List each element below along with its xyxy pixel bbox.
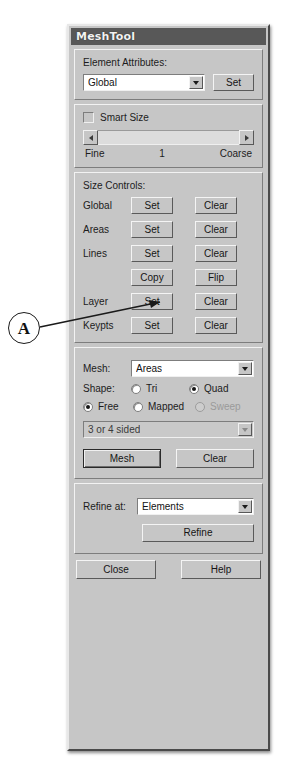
chevron-down-icon[interactable] [238, 362, 252, 375]
smart-size-slider[interactable] [83, 130, 254, 145]
smart-size-value-label: 1 [159, 148, 165, 159]
smart-size-panel: Smart Size Fine 1 Coarse [74, 104, 263, 168]
mesh-panel: Mesh: Areas Shape: Tri Quad [74, 347, 263, 479]
smart-size-checkbox[interactable] [83, 112, 94, 123]
callout-marker-label: A [18, 320, 30, 337]
size-control-layer-set-button[interactable]: Set [131, 293, 173, 310]
mode-option-sweep-label: Sweep [210, 401, 241, 412]
mesh-button[interactable]: Mesh [83, 449, 161, 468]
radio-quad[interactable] [189, 384, 199, 394]
radio-mapped[interactable] [133, 402, 143, 412]
smart-size-slider-labels: Fine 1 Coarse [83, 147, 254, 159]
smart-size-checkbox-row[interactable]: Smart Size [83, 112, 254, 123]
smart-size-label: Smart Size [100, 112, 149, 123]
mesh-type-dropdown[interactable]: Areas [131, 360, 254, 377]
element-attributes-set-button[interactable]: Set [213, 74, 254, 91]
arrow-right-icon[interactable] [239, 130, 254, 145]
sided-dropdown-value: 3 or 4 sided [88, 424, 140, 435]
element-attributes-row: Global Set [83, 74, 254, 91]
chevron-down-icon[interactable] [238, 423, 252, 436]
smart-size-slider-track[interactable] [98, 130, 239, 145]
element-attributes-label: Element Attributes: [83, 57, 254, 68]
dialog-body: Element Attributes: Global Set Smart Siz… [69, 45, 268, 584]
dialog-footer: Close Help [74, 558, 263, 579]
size-control-global-clear-button[interactable]: Clear [195, 197, 237, 214]
smart-size-max-label: Coarse [220, 148, 252, 159]
size-controls-label: Size Controls: [83, 180, 254, 191]
size-control-row-copy-flip: Copy Flip [83, 269, 254, 286]
size-control-lines-set-button[interactable]: Set [131, 245, 173, 262]
close-button[interactable]: Close [76, 560, 156, 579]
refine-at-label: Refine at: [83, 501, 137, 512]
callout-marker-a: A [8, 312, 40, 344]
sided-dropdown-row: 3 or 4 sided [83, 421, 254, 438]
radio-free[interactable] [83, 402, 93, 412]
mode-option-free-label: Free [98, 401, 119, 412]
chevron-down-icon[interactable] [238, 500, 252, 513]
mode-option-free[interactable]: Free [83, 401, 133, 412]
size-control-areas-clear-button[interactable]: Clear [195, 221, 237, 238]
shape-option-tri[interactable]: Tri [131, 383, 189, 394]
refine-at-value: Elements [142, 501, 184, 512]
mode-option-sweep: Sweep [195, 401, 241, 412]
radio-tri[interactable] [131, 384, 141, 394]
shape-option-tri-label: Tri [146, 383, 157, 394]
mesh-label: Mesh: [83, 363, 131, 374]
dialog-title: MeshTool [76, 30, 135, 43]
element-attributes-value: Global [88, 77, 117, 88]
size-control-row-areas: Areas Set Clear [83, 221, 254, 238]
refine-button[interactable]: Refine [142, 524, 254, 542]
shape-row: Shape: Tri Quad [83, 383, 254, 394]
mesh-clear-button[interactable]: Clear [176, 449, 254, 468]
sided-dropdown[interactable]: 3 or 4 sided [83, 421, 254, 438]
size-control-global-set-button[interactable]: Set [131, 197, 173, 214]
size-controls-panel: Size Controls: Global Set Clear Areas Se… [74, 172, 263, 343]
size-control-copy-button[interactable]: Copy [131, 269, 173, 286]
radio-sweep [195, 402, 205, 412]
refine-at-row: Refine at: Elements [83, 498, 254, 515]
size-control-areas-set-button[interactable]: Set [131, 221, 173, 238]
size-control-layer-clear-button[interactable]: Clear [195, 293, 237, 310]
mesh-type-row: Mesh: Areas [83, 360, 254, 377]
dialog-titlebar[interactable]: MeshTool [71, 28, 266, 45]
size-control-row-keypts: Keypts Set Clear [83, 317, 254, 334]
refine-panel: Refine at: Elements Refine [74, 483, 263, 554]
shape-option-quad[interactable]: Quad [189, 383, 228, 394]
size-control-label-global: Global [83, 200, 131, 211]
smart-size-min-label: Fine [85, 148, 104, 159]
mesh-tool-dialog: MeshTool Element Attributes: Global Set … [67, 24, 270, 751]
mesh-action-row: Mesh Clear [83, 449, 254, 468]
size-control-label-layer: Layer [83, 296, 131, 307]
mesh-type-value: Areas [136, 363, 162, 374]
size-control-lines-clear-button[interactable]: Clear [195, 245, 237, 262]
shape-option-quad-label: Quad [204, 383, 228, 394]
element-attributes-dropdown[interactable]: Global [83, 74, 205, 91]
size-control-row-global: Global Set Clear [83, 197, 254, 214]
size-control-flip-button[interactable]: Flip [195, 269, 237, 286]
help-button[interactable]: Help [181, 560, 261, 579]
size-control-label-lines: Lines [83, 248, 131, 259]
mode-option-mapped-label: Mapped [148, 401, 184, 412]
mode-option-mapped[interactable]: Mapped [133, 401, 195, 412]
size-control-row-lines: Lines Set Clear [83, 245, 254, 262]
size-control-keypts-set-button[interactable]: Set [131, 317, 173, 334]
refine-button-row: Refine [83, 524, 254, 542]
shape-label: Shape: [83, 383, 131, 394]
element-attributes-panel: Element Attributes: Global Set [74, 49, 263, 100]
mesh-mode-row: Free Mapped Sweep [83, 401, 254, 412]
size-control-keypts-clear-button[interactable]: Clear [195, 317, 237, 334]
refine-at-dropdown[interactable]: Elements [137, 498, 254, 515]
size-control-label-keypts: Keypts [83, 320, 131, 331]
size-control-row-layer: Layer Set Clear [83, 293, 254, 310]
chevron-down-icon[interactable] [189, 76, 203, 89]
arrow-left-icon[interactable] [83, 130, 98, 145]
size-control-label-areas: Areas [83, 224, 131, 235]
